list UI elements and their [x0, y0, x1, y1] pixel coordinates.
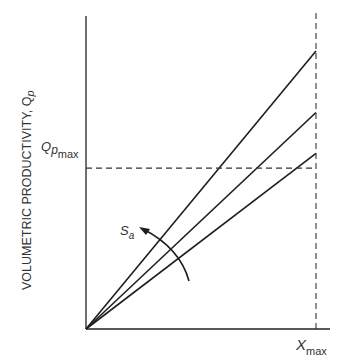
x-max-label: Xmax	[295, 336, 327, 357]
chart: VOLUMETRIC PRODUCTIVITY, Qp Qpmax Xmax S…	[0, 0, 342, 364]
sa-arrowhead-icon	[139, 227, 150, 235]
sa-label: Sa	[120, 223, 135, 241]
series-line-2	[86, 113, 316, 329]
series-group	[86, 51, 316, 329]
series-line-3	[86, 153, 316, 329]
series-line-1	[86, 51, 316, 329]
y-axis-label: VOLUMETRIC PRODUCTIVITY, Qp	[20, 90, 36, 290]
qp-max-label: Qpmax	[41, 139, 79, 160]
